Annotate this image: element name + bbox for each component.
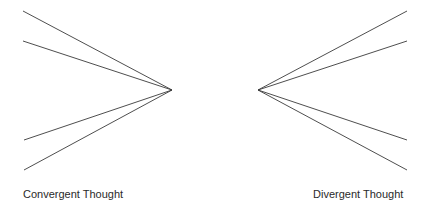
convergent-thought-label: Convergent Thought: [23, 187, 123, 201]
convergent-line-2: [23, 41, 172, 90]
divergent-line-1: [258, 11, 407, 90]
convergent-line-3: [24, 90, 172, 140]
convergent-line-1: [23, 11, 172, 90]
convergent-line-4: [24, 90, 172, 170]
divergent-line-3: [258, 90, 407, 140]
divergent-lines: [258, 11, 407, 170]
divergent-line-2: [258, 41, 407, 90]
thinking-diagram: [0, 0, 433, 211]
divergent-line-4: [258, 90, 407, 170]
convergent-lines: [23, 11, 172, 170]
divergent-thought-label: Divergent Thought: [313, 187, 403, 201]
